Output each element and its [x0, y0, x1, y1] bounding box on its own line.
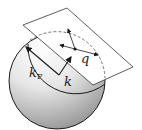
fermi-sphere-diagram: kF k q — [0, 0, 142, 130]
label-q: q — [81, 51, 89, 66]
label-k: k — [64, 74, 72, 89]
